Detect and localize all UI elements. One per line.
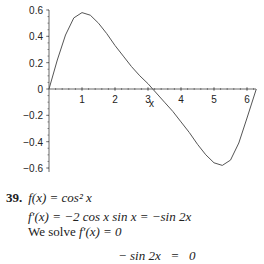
function-definition: f(x) = cos² x — [28, 190, 92, 205]
problem-number: 39. — [6, 190, 22, 205]
y-tick-label: 0 — [37, 84, 43, 95]
x-tick-label: 2 — [112, 94, 118, 105]
y-tick-label: 0.4 — [29, 31, 43, 42]
y-tick-label: −0.4 — [23, 137, 43, 148]
problem-39: 39.f(x) = cos² x — [6, 190, 92, 205]
y-tick-label: 0.2 — [29, 58, 43, 69]
x-tick-label: 1 — [79, 94, 85, 105]
tick-labels: 1234560.60.40.20−0.2−0.4−0.6 — [23, 5, 250, 174]
function-plot: 1234560.60.40.20−0.2−0.4−0.6 x — [0, 0, 264, 190]
x-tick-label: 4 — [178, 94, 184, 105]
y-tick-label: 0.6 — [29, 5, 43, 16]
x-tick-label: 5 — [211, 94, 217, 105]
solve-line: We solve f′(x) = 0 — [28, 224, 122, 240]
x-axis-label: x — [149, 98, 154, 109]
y-tick-label: −0.2 — [23, 110, 43, 121]
derivative-line: f′(x) = −2 cos x sin x = −sin 2x — [28, 209, 191, 225]
y-tick-label: −0.6 — [23, 163, 43, 174]
axes — [49, 10, 256, 172]
solve-equation: f′(x) = 0 — [79, 224, 122, 239]
x-tick-label: 6 — [244, 94, 250, 105]
solve-text: We solve — [28, 224, 79, 239]
equation-line: − sin 2x = 0 — [118, 248, 196, 264]
